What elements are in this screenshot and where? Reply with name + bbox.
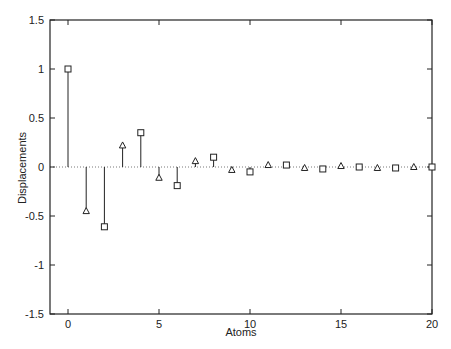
square-marker	[356, 164, 362, 170]
x-axis-label: Atoms	[225, 326, 257, 338]
square-marker	[320, 166, 326, 172]
y-tick-label: -0.5	[25, 210, 44, 222]
square-marker	[101, 224, 107, 230]
square-marker	[174, 183, 180, 189]
data-stems	[65, 66, 435, 230]
triangle-marker	[265, 162, 271, 168]
y-tick-label: -1	[34, 259, 44, 271]
triangle-marker	[301, 164, 307, 170]
x-tick-label: 5	[156, 318, 162, 330]
triangle-marker	[156, 174, 162, 180]
square-marker	[283, 162, 289, 168]
x-tick-label: 0	[65, 318, 71, 330]
square-marker	[65, 66, 71, 72]
x-tick-label: 15	[335, 318, 347, 330]
y-tick-label: 0	[38, 161, 44, 173]
y-tick-label: 0.5	[29, 112, 44, 124]
triangle-marker	[411, 164, 417, 170]
y-tick-label: -1.5	[25, 308, 44, 320]
square-marker	[211, 154, 217, 160]
stem-chart: 1.510.50-0.5-1-1.5 05101520 Atoms Displa…	[0, 0, 451, 349]
triangle-marker	[83, 208, 89, 214]
square-marker	[429, 164, 435, 170]
y-tick-label: 1	[38, 63, 44, 75]
triangle-marker	[192, 158, 198, 164]
triangle-marker	[119, 142, 125, 148]
triangle-marker	[338, 163, 344, 169]
square-marker	[138, 130, 144, 136]
square-marker	[247, 169, 253, 175]
y-axis-label: Displacements	[16, 131, 28, 204]
triangle-marker	[229, 166, 235, 172]
square-marker	[393, 165, 399, 171]
triangle-marker	[374, 164, 380, 170]
y-tick-label: 1.5	[29, 14, 44, 26]
x-tick-label: 20	[426, 318, 438, 330]
